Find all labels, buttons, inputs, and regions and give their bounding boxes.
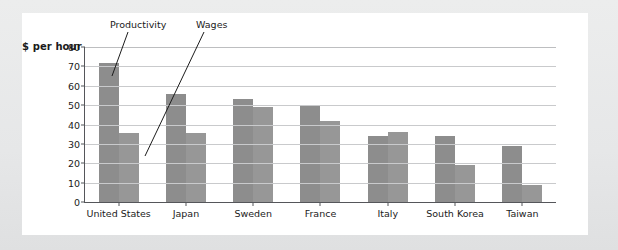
y-tick-label: 0 [74,197,80,208]
x-tick-label: Sweden [234,208,272,219]
bar-productivity [300,105,320,202]
x-tick-mark [118,202,119,206]
y-tick-mark [81,182,85,183]
y-tick-mark [81,202,85,203]
y-tick-mark [81,47,85,48]
gridline [85,47,556,48]
x-tick-label: Japan [173,208,200,219]
y-tick-label: 30 [68,138,80,149]
x-tick-label: Taiwan [506,208,538,219]
y-tick-mark [81,85,85,86]
bar-productivity [233,99,253,202]
gridline [85,163,556,164]
y-tick-label: 60 [68,80,80,91]
gridline [85,66,556,67]
y-tick-mark [81,163,85,164]
gridline [85,144,556,145]
annotation-productivity: Productivity [110,19,166,30]
x-tick-mark [253,202,254,206]
x-tick-label: South Korea [426,208,484,219]
bar-productivity [502,146,522,202]
y-tick-mark [81,105,85,106]
y-tick-label: 10 [68,177,80,188]
x-tick-mark [387,202,388,206]
y-tick-label: 50 [68,100,80,111]
gridline [85,86,556,87]
x-tick-mark [522,202,523,206]
bar-productivity [368,136,388,202]
x-tick-label: United States [86,208,150,219]
bar-wages [320,121,340,202]
gridline [85,183,556,184]
x-tick-mark [455,202,456,206]
y-tick-label: 70 [68,61,80,72]
x-tick-label: Italy [377,208,398,219]
plot-area: United StatesJapanSwedenFranceItalySouth… [84,47,556,203]
x-tick-mark [185,202,186,206]
bar-productivity [435,136,455,202]
bar-wages [388,132,408,202]
gridline [85,125,556,126]
annotation-wages: Wages [196,19,227,30]
gridline [85,105,556,106]
y-tick-label: 20 [68,158,80,169]
chart-figure: $ per hour United StatesJapanSwedenFranc… [0,0,618,250]
y-tick-label: 40 [68,119,80,130]
bar-wages [522,185,542,202]
bar-productivity [166,94,186,203]
y-tick-label: 80 [68,42,80,53]
y-tick-mark [81,124,85,125]
bar-wages [253,107,273,202]
x-tick-label: France [305,208,337,219]
y-tick-mark [81,66,85,67]
x-tick-mark [320,202,321,206]
bar-productivity [99,63,119,203]
y-tick-mark [81,143,85,144]
